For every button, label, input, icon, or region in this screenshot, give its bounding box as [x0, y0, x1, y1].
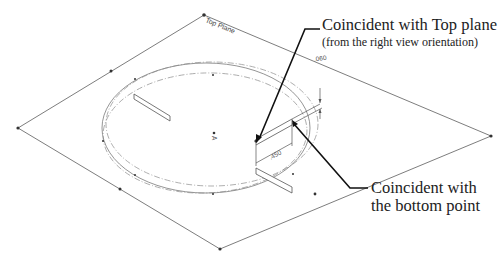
ellipse-point[interactable]	[134, 78, 136, 80]
leader-line-bottom	[294, 124, 368, 188]
plane-midpoint-left-bottom[interactable]	[119, 188, 122, 191]
length-dimension-value[interactable]: .450	[268, 148, 283, 160]
ellipse-point[interactable]	[102, 140, 104, 142]
callout-top-title: Coincident with Top plane	[322, 16, 497, 34]
callout-bottom: Coincident with the bottom point	[371, 179, 480, 215]
plane-midpoint-right-bottom[interactable]	[314, 193, 317, 196]
profile-bars[interactable]	[134, 94, 322, 193]
callout-top-subtitle: (from the right view orientation)	[322, 35, 497, 49]
profile-extension-line	[292, 108, 322, 124]
plane-vertex-right[interactable]	[489, 134, 492, 137]
origin-icon[interactable]	[213, 132, 216, 135]
ellipse-point[interactable]	[212, 193, 214, 195]
path-ellipses[interactable]	[101, 62, 318, 197]
ellipse-point[interactable]	[292, 173, 294, 175]
plane-vertex-left[interactable]	[16, 126, 19, 129]
callout-bottom-line2: the bottom point	[371, 197, 480, 215]
callout-bottom-line1: Coincident with	[371, 179, 480, 197]
origin-marker[interactable]: A	[211, 132, 218, 141]
plane-vertex-top[interactable]	[202, 13, 206, 17]
offset-dimension-value[interactable]: .060	[313, 54, 327, 63]
origin-label: A	[211, 136, 218, 141]
profile-bar-right-bottom[interactable]	[256, 168, 292, 193]
ellipse-point[interactable]	[212, 74, 214, 76]
dim-arrowhead-icon	[319, 99, 322, 103]
profile-bar-left[interactable]	[134, 94, 170, 121]
ellipse-point[interactable]	[134, 174, 136, 176]
plane-label: Top Plane	[204, 16, 236, 35]
plane-vertex-bottom[interactable]	[218, 247, 221, 250]
callout-top: Coincident with Top plane (from the righ…	[322, 16, 497, 49]
plane-midpoint-left-top[interactable]	[110, 70, 113, 73]
leader-bottom	[292, 120, 368, 188]
